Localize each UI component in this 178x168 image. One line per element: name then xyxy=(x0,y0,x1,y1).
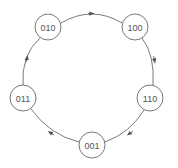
node-label: 110 xyxy=(143,94,157,104)
node-011: 011 xyxy=(10,85,36,111)
node-100: 100 xyxy=(122,14,148,40)
state-cycle-diagram: 010 100 110 001 011 xyxy=(0,0,178,168)
edge-001-011 xyxy=(31,109,79,142)
edge-010-100 xyxy=(61,14,122,23)
arrow-icon xyxy=(129,131,133,134)
node-label: 011 xyxy=(16,94,30,104)
edge-011-010 xyxy=(23,38,40,85)
node-label: 010 xyxy=(40,23,55,33)
edge-110-001 xyxy=(105,110,144,142)
arrow-icon xyxy=(50,133,54,136)
node-label: 001 xyxy=(84,141,99,151)
node-110: 110 xyxy=(137,85,163,111)
node-010: 010 xyxy=(35,14,61,40)
node-001: 001 xyxy=(79,132,105,158)
node-label: 100 xyxy=(127,23,142,33)
edge-100-110 xyxy=(142,38,153,85)
arrow-icon xyxy=(154,56,155,61)
